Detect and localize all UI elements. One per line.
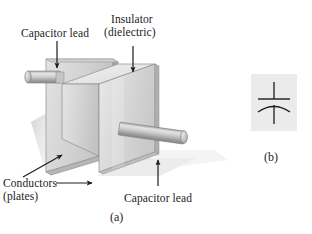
caption-panel-b: (b) [264,150,278,165]
capacitor-figure: Capacitor lead Insulator (dielectric) Co… [0,0,312,234]
capacitor-symbol [0,0,312,234]
